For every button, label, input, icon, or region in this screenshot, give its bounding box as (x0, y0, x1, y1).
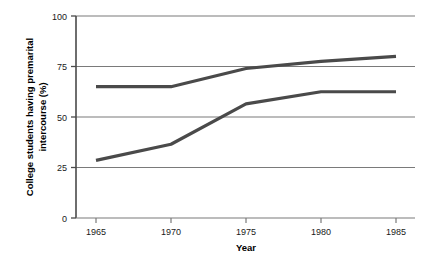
x-tick-label: 1975 (236, 227, 256, 237)
y-tick-label: 75 (57, 62, 67, 72)
y-tick-label: 25 (57, 163, 67, 173)
x-tick-label: 1970 (161, 227, 181, 237)
y-tick-label: 100 (52, 12, 67, 22)
y-tick-label: 50 (57, 113, 67, 123)
x-tick-label: 1980 (311, 227, 331, 237)
x-tick-label: 1985 (386, 227, 406, 237)
y-tick-label: 0 (62, 214, 67, 224)
line-chart: 0255075100 19651970197519801985 Year Col… (0, 0, 436, 258)
x-axis-title: Year (236, 242, 256, 253)
y-axis-title-line2: intercourse (%) (37, 82, 48, 151)
x-tick-label: 1965 (86, 227, 106, 237)
chart-figure: 0255075100 19651970197519801985 Year Col… (0, 0, 436, 258)
y-axis-title-line1: College students having premarital (24, 38, 35, 196)
